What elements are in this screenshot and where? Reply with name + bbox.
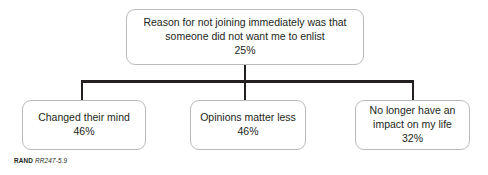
node-root-value: 25%: [234, 44, 255, 58]
figure-credit: RANDRR247-5.9: [14, 157, 67, 164]
node-child-1-value: 46%: [237, 125, 258, 139]
node-child-2-line-2: impact on my life: [373, 118, 452, 132]
node-child-1-label: Opinions matter less: [200, 111, 296, 125]
node-child-0-value: 46%: [73, 125, 94, 139]
node-child-opinions-matter-less: Opinions matter less 46%: [190, 100, 306, 150]
node-child-0-label: Changed their mind: [38, 111, 130, 125]
node-child-2-value: 32%: [402, 132, 423, 146]
figure-credit-id: RR247-5.9: [35, 157, 67, 164]
node-child-2-line-1: No longer have an: [370, 104, 456, 118]
node-root: Reason for not joining immediately was t…: [126, 9, 364, 65]
figure-root: Reason for not joining immediately was t…: [0, 0, 488, 175]
node-child-no-longer-have-an-impact: No longer have an impact on my life 32%: [355, 100, 470, 150]
node-root-line-2: someone did not want me to enlist: [165, 30, 324, 44]
node-child-changed-their-mind: Changed their mind 46%: [22, 100, 146, 150]
node-root-line-1: Reason for not joining immediately was t…: [143, 16, 346, 30]
figure-credit-brand: RAND: [14, 157, 33, 164]
